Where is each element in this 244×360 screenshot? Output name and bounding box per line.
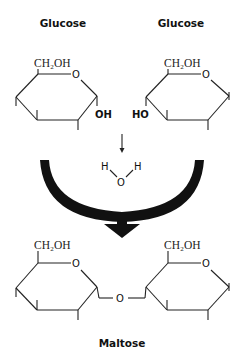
maltose-molecule: CH₂OH O O CH₂OH O [16,239,229,320]
maltose-formation-diagram: Glucose Glucose CH₂OH O OH CH₂OH O HO [0,0,244,360]
glucose-left-label: Glucose [40,17,87,29]
maltose-glycosidic-oxygen: O [116,293,124,304]
water-hydrogen-2: H [134,161,142,172]
water-release: H H O [101,134,142,188]
maltose-right-ring-oxygen: O [202,258,210,269]
water-oxygen: O [117,177,125,188]
glucose-left-ring-oxygen: O [72,69,80,80]
glucose-left-ring: CH₂OH O OH [16,57,112,130]
glucose-left-ch2oh: CH₂OH [34,57,71,69]
maltose-left-ring-oxygen: O [72,258,80,269]
water-hydrogen-1: H [101,161,109,172]
glucose-left-hydroxyl: OH [95,109,112,120]
diagram-canvas: Glucose Glucose CH₂OH O OH CH₂OH O HO [0,0,244,360]
maltose-label: Maltose [99,337,146,349]
glucose-right-label: Glucose [158,17,205,29]
maltose-right-ch2oh: CH₂OH [164,239,201,251]
glucose-right-ch2oh: CH₂OH [164,57,201,69]
glucose-right-ring: CH₂OH O HO [132,57,229,130]
reaction-arrow-icon [40,160,204,238]
glucose-right-ring-oxygen: O [202,69,210,80]
small-arrow-down-icon [120,148,125,153]
maltose-left-ch2oh: CH₂OH [34,239,71,251]
glucose-right-hydroxyl: HO [132,109,149,120]
